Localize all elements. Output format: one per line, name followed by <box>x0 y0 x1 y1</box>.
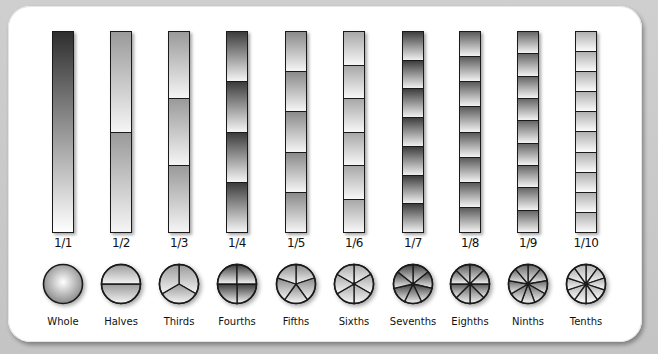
bar-segment <box>169 32 189 98</box>
fraction-circle-whole-icon <box>42 263 84 305</box>
bar-segment <box>576 212 596 232</box>
fraction-bar-whole <box>52 31 74 233</box>
bar-segment <box>403 60 423 89</box>
fraction-circle-sixths-icon <box>333 263 375 305</box>
bar-segment <box>403 146 423 175</box>
bar-segment <box>111 132 131 233</box>
fraction-circle-eighths-icon <box>449 263 491 305</box>
fraction-circle-thirds-icon <box>158 263 200 305</box>
bar-segment <box>518 32 538 53</box>
bar-segment <box>227 132 247 182</box>
bar-segment <box>576 111 596 131</box>
fraction-label: 1/6 <box>334 236 374 250</box>
fraction-bar-halves <box>110 31 132 233</box>
fraction-bar-sevenths <box>402 31 424 233</box>
bar-segment <box>576 131 596 151</box>
bar-segment <box>111 32 131 132</box>
fraction-bar-ninths <box>517 31 539 233</box>
bar-segment <box>403 88 423 117</box>
fraction-circle-tenths-icon <box>565 263 607 305</box>
fraction-name-label: Tenths <box>551 316 621 327</box>
fraction-label: 1/3 <box>159 236 199 250</box>
fraction-bar-fifths <box>285 31 307 233</box>
bar-segment <box>518 210 538 232</box>
fraction-bar-eighths <box>459 31 481 233</box>
bar-segment <box>460 56 480 81</box>
bar-segment <box>518 143 538 165</box>
bar-segment <box>286 32 306 71</box>
bar-segment <box>286 71 306 111</box>
bar-segment <box>53 32 73 232</box>
bar-segment <box>518 120 538 142</box>
bar-segment <box>518 53 538 75</box>
bar-segment <box>576 91 596 111</box>
bar-segment <box>460 207 480 232</box>
fraction-label: 1/5 <box>276 236 316 250</box>
bar-segment <box>576 71 596 91</box>
fraction-circle-sevenths-icon <box>392 263 434 305</box>
bar-segment <box>518 165 538 187</box>
bar-segment <box>403 203 423 232</box>
fraction-label: 1/4 <box>217 236 257 250</box>
fraction-bar-sixths <box>343 31 365 233</box>
fraction-circle-fifths-icon <box>275 263 317 305</box>
fraction-bar-thirds <box>168 31 190 233</box>
bar-segment <box>227 32 247 81</box>
fraction-label: 1/10 <box>566 236 606 250</box>
bar-segment <box>344 199 364 233</box>
bar-segment <box>286 192 306 232</box>
bar-segment <box>576 152 596 172</box>
bar-segment <box>403 117 423 146</box>
bar-segment <box>169 165 189 232</box>
fraction-circle-ninths-icon <box>507 263 549 305</box>
bar-segment <box>344 165 364 199</box>
bar-segment <box>460 182 480 207</box>
bar-segment <box>169 98 189 165</box>
bar-segment <box>518 98 538 120</box>
fraction-label: 1/2 <box>101 236 141 250</box>
bar-segment <box>460 32 480 56</box>
bar-segment <box>460 81 480 106</box>
fraction-circle-fourths-icon <box>216 263 258 305</box>
bar-segment <box>403 175 423 204</box>
bar-segment <box>460 157 480 182</box>
bar-segment <box>576 51 596 71</box>
bar-segment <box>286 152 306 192</box>
fraction-label: 1/8 <box>450 236 490 250</box>
fraction-label: 1/9 <box>508 236 548 250</box>
bar-segment <box>518 187 538 209</box>
bar-segment <box>344 32 364 65</box>
bar-segment <box>344 65 364 99</box>
bar-segment <box>227 81 247 131</box>
fraction-bar-tenths <box>575 31 597 233</box>
bar-segment <box>344 132 364 166</box>
fraction-label: 1/1 <box>43 236 83 250</box>
bar-segment <box>286 111 306 151</box>
fraction-bar-fourths <box>226 31 248 233</box>
bar-segment <box>576 192 596 212</box>
bar-segment <box>460 132 480 157</box>
bar-segment <box>518 76 538 98</box>
bar-segment <box>576 32 596 51</box>
bar-segment <box>227 182 247 232</box>
bar-segment <box>403 32 423 60</box>
bar-segment <box>576 172 596 192</box>
bar-segment <box>460 106 480 131</box>
fraction-circle-halves-icon <box>100 263 142 305</box>
bar-segment <box>344 98 364 132</box>
fraction-label: 1/7 <box>393 236 433 250</box>
